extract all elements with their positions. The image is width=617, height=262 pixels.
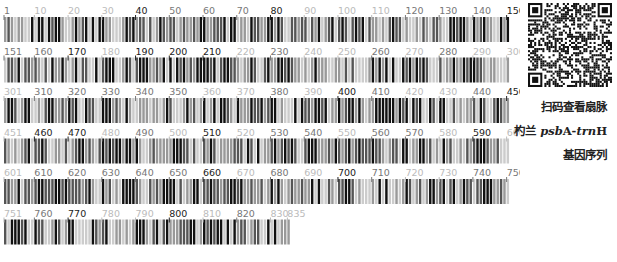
qr-module xyxy=(596,19,598,21)
base-bar xyxy=(270,220,272,245)
qr-module xyxy=(569,36,571,38)
qr-module xyxy=(598,81,600,83)
base-bar xyxy=(75,17,77,42)
position-label: 390 xyxy=(304,86,322,97)
qr-module xyxy=(536,26,538,28)
base-bar xyxy=(217,58,219,83)
qr-module xyxy=(579,7,581,9)
base-bar xyxy=(244,58,246,83)
base-bar xyxy=(294,17,296,42)
qr-module xyxy=(530,23,532,25)
base-bar xyxy=(402,98,404,123)
base-bar xyxy=(270,179,272,204)
qr-module xyxy=(596,60,598,62)
base-bar xyxy=(446,139,448,164)
qr-module xyxy=(604,79,606,81)
base-bar xyxy=(338,17,340,42)
base-bar xyxy=(152,179,154,204)
qr-module xyxy=(553,32,555,34)
qr-module xyxy=(536,64,538,66)
position-label: 790 xyxy=(136,208,154,219)
qr-module xyxy=(559,52,561,54)
base-bar xyxy=(38,139,40,164)
qr-module xyxy=(571,42,573,44)
base-bar xyxy=(348,17,350,42)
qr-module xyxy=(589,9,591,11)
base-bar xyxy=(297,139,299,164)
qr-module xyxy=(583,71,585,73)
base-bar xyxy=(463,139,465,164)
base-bar xyxy=(338,139,340,164)
qr-module xyxy=(594,73,596,75)
base-bar xyxy=(497,139,499,164)
position-label: 1 xyxy=(4,5,10,16)
qr-module xyxy=(548,17,550,19)
qr-module xyxy=(569,60,571,62)
qr-module xyxy=(587,38,589,40)
base-bar xyxy=(470,58,472,83)
base-bar xyxy=(358,58,360,83)
base-bar xyxy=(439,17,441,42)
barcode-row: 3013103203303403503603703803904004104204… xyxy=(4,86,520,123)
base-bar xyxy=(68,220,70,245)
base-bar xyxy=(200,220,202,245)
position-label: 710 xyxy=(372,167,390,178)
base-bar xyxy=(503,179,505,204)
base-bar xyxy=(419,17,421,42)
base-bar xyxy=(105,139,107,164)
qr-module xyxy=(559,64,561,66)
qr-module xyxy=(544,11,546,13)
base-bar xyxy=(210,179,212,204)
qr-module xyxy=(538,58,540,60)
qr-module xyxy=(559,71,561,73)
qr-module xyxy=(557,58,559,60)
base-bar xyxy=(480,179,482,204)
base-bar xyxy=(270,17,272,42)
base-bar xyxy=(142,139,144,164)
base-bar xyxy=(476,98,478,123)
qr-module xyxy=(571,9,573,11)
base-bar xyxy=(432,179,434,204)
qr-module xyxy=(592,79,594,81)
qr-module xyxy=(610,52,612,54)
qr-module xyxy=(592,56,594,58)
base-bar xyxy=(190,98,192,123)
base-bar xyxy=(129,139,131,164)
base-bar xyxy=(156,17,158,42)
qr-module xyxy=(606,42,608,44)
base-bar xyxy=(304,139,306,164)
base-bar xyxy=(203,179,205,204)
qr-module xyxy=(610,44,612,46)
position-label: 350 xyxy=(169,86,187,97)
base-bar xyxy=(328,98,330,123)
base-bar xyxy=(78,220,80,245)
caption-line-2: 杓兰 psbA-trnH xyxy=(514,122,607,138)
base-bar xyxy=(250,179,252,204)
qr-module xyxy=(585,81,587,83)
qr-module xyxy=(542,34,544,36)
qr-module xyxy=(565,60,567,62)
qr-module xyxy=(606,73,608,75)
qr-module xyxy=(546,32,548,34)
base-bar xyxy=(217,17,219,42)
qr-module xyxy=(536,58,538,60)
qr-module xyxy=(555,34,557,36)
base-bar xyxy=(480,98,482,123)
qr-module xyxy=(592,71,594,73)
qr-module xyxy=(579,81,581,83)
base-bar xyxy=(24,98,26,123)
base-bar xyxy=(456,17,458,42)
base-bar xyxy=(139,58,141,83)
base-bar xyxy=(362,98,364,123)
base-bar xyxy=(213,220,215,245)
base-bar xyxy=(473,98,475,123)
qr-module xyxy=(577,52,579,54)
base-bar xyxy=(183,220,185,245)
base-bar xyxy=(183,139,185,164)
qr-module xyxy=(563,30,565,32)
base-bar xyxy=(287,17,289,42)
base-bar xyxy=(173,179,175,204)
qr-module xyxy=(608,77,610,79)
qr-module xyxy=(583,67,585,69)
base-bar xyxy=(142,58,144,83)
